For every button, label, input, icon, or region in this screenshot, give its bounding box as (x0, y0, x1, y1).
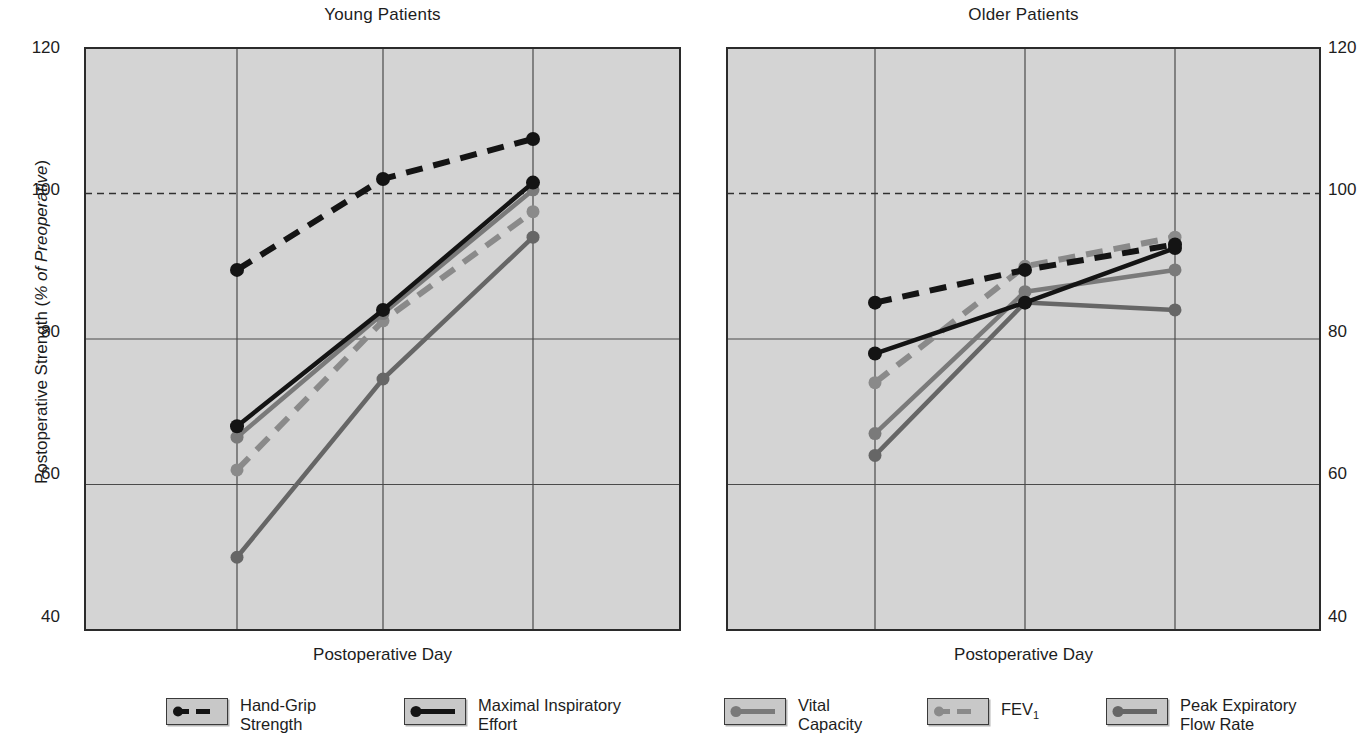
legend-label-line1: Peak Expiratory (1180, 696, 1296, 714)
legend-label-line1: Hand-Grip (240, 696, 316, 714)
legend-label-line1: Vital (798, 696, 830, 714)
data-point (230, 263, 244, 277)
legend-label-hand-grip-strength: Hand-Grip Strength (240, 696, 316, 734)
data-point (526, 132, 540, 146)
data-point (869, 427, 882, 440)
panel-plot-young (85, 48, 680, 630)
data-point (527, 205, 540, 218)
legend: Hand-Grip Strength Maximal Inspiratory E… (0, 696, 1369, 751)
data-point (1169, 303, 1182, 316)
legend-label-line2: Capacity (798, 715, 862, 733)
legend-swatch-hand-grip-strength (166, 698, 228, 725)
data-point (526, 176, 540, 190)
data-point (869, 449, 882, 462)
legend-label-peak-expiratory-flow-rate: Peak Expiratory Flow Rate (1180, 696, 1296, 734)
legend-item-hand-grip-strength: Hand-Grip Strength (166, 696, 316, 734)
data-point (231, 463, 244, 476)
legend-label-vital-capacity: Vital Capacity (798, 696, 862, 734)
legend-label-maximal-inspiratory-effort: Maximal Inspiratory Effort (478, 696, 621, 734)
data-point (868, 296, 882, 310)
data-point (230, 419, 244, 433)
data-point (1169, 263, 1182, 276)
legend-label-line1: FEV (1001, 700, 1033, 718)
data-point (376, 303, 390, 317)
legend-label-line1: Maximal Inspiratory (478, 696, 621, 714)
legend-label-line2: Flow Rate (1180, 715, 1254, 733)
legend-label-fev1: FEV1 (1001, 700, 1039, 725)
legend-item-peak-expiratory-flow-rate: Peak Expiratory Flow Rate (1106, 696, 1296, 734)
legend-item-maximal-inspiratory-effort: Maximal Inspiratory Effort (404, 696, 621, 734)
data-point (1168, 237, 1182, 251)
figure-two-panel-line-chart: Young Patients Older Patients Postoperat… (0, 0, 1369, 751)
data-point (376, 172, 390, 186)
legend-swatch-vital-capacity (724, 698, 786, 725)
data-point (527, 231, 540, 244)
panel-plot-older (727, 48, 1320, 630)
data-point (868, 347, 882, 361)
data-point (377, 373, 390, 386)
data-point (869, 376, 882, 389)
legend-swatch-maximal-inspiratory-effort (404, 698, 466, 725)
legend-label-line2: Effort (478, 715, 517, 733)
data-point (1018, 296, 1032, 310)
legend-label-line2: Strength (240, 715, 302, 733)
data-point (1018, 263, 1032, 277)
legend-swatch-fev1 (927, 698, 989, 725)
plot-canvas (0, 0, 1369, 751)
legend-swatch-peak-expiratory-flow-rate (1106, 698, 1168, 725)
legend-item-vital-capacity: Vital Capacity (724, 696, 862, 734)
legend-item-fev1: FEV1 (927, 696, 1039, 725)
legend-label-subscript: 1 (1033, 709, 1039, 721)
data-point (231, 551, 244, 564)
